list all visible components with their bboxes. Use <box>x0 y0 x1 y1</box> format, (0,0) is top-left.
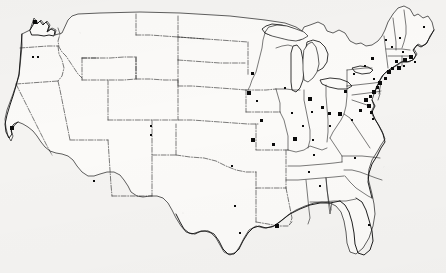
site-marker: Alabama north <box>319 185 322 188</box>
site-marker: Connecticut coast <box>403 65 406 68</box>
site-marker: Missouri <box>251 138 254 141</box>
site-marker: Kansas <box>231 165 234 168</box>
site-marker: Baltimore <box>369 95 372 98</box>
site-marker: Ohio <box>328 112 331 115</box>
site-marker: Pennsylvania northeast <box>364 65 367 68</box>
site-marker: New Hampshire north <box>399 37 402 40</box>
site-marker: Long Island <box>397 66 400 69</box>
site-marker: Wisconsin <box>284 87 287 90</box>
site-marker: North Carolina <box>354 157 357 160</box>
site-marker: Iowa north <box>247 91 250 94</box>
site-marker: Arizona <box>93 180 96 183</box>
site-marker: Indiana north <box>311 111 314 114</box>
site-marker: Puget Sound <box>33 20 37 24</box>
site-marker: Maine <box>423 26 426 29</box>
site-marker: New York east <box>371 57 374 60</box>
site-marker: Missouri east <box>272 143 275 146</box>
us-map-svg: Puget SoundOregon westOregon eastSan Fra… <box>0 0 446 273</box>
site-marker: Ohio south <box>329 125 332 128</box>
site-marker: New Orleans <box>275 224 279 228</box>
site-marker: Oregon east <box>37 56 40 59</box>
site-marker: Illinois south <box>293 137 296 140</box>
site-marker: Virginia east <box>370 111 373 114</box>
site-marker: Indiana <box>312 139 315 142</box>
site-marker: Texas north <box>234 205 237 208</box>
site-marker: Long Island west <box>391 67 394 70</box>
site-marker: Tennessee <box>308 171 311 174</box>
site-marker: Illinois central <box>302 125 305 128</box>
site-marker: Florida central <box>368 224 371 227</box>
site-marker: Oregon west <box>32 56 35 59</box>
site-marker: New Hampshire <box>391 46 394 49</box>
site-marker: Virginia west <box>351 119 354 122</box>
site-marker: Vermont <box>385 39 388 42</box>
site-marker: San Francisco Bay <box>10 126 14 130</box>
site-marker: Pennsylvania west <box>344 90 347 93</box>
site-marker: New York City <box>387 70 391 74</box>
site-marker: Connecticut <box>395 60 398 63</box>
site-marker: Washington DC <box>364 98 367 101</box>
site-marker: Massachusetts north <box>402 51 405 54</box>
site-marker: Cape Cod <box>414 61 417 64</box>
site-marker: Delaware <box>376 86 379 89</box>
site-marker: Michigan south <box>308 97 311 100</box>
site-marker: Hampton Roads <box>372 118 375 121</box>
site-marker: Ohio northeast <box>338 112 342 116</box>
site-marker: Colorado north <box>150 125 153 128</box>
site-marker: Ohio northwest <box>321 106 324 109</box>
site-marker: Texas gulf <box>239 232 242 235</box>
site-marker: Missouri west <box>260 119 263 122</box>
site-marker: Pennsylvania southeast <box>373 78 376 81</box>
site-marker: Boston <box>409 55 412 58</box>
site-marker: Maryland north <box>372 90 375 93</box>
site-marker: Pennsylvania central <box>353 73 356 76</box>
site-marker: Colorado south <box>150 134 153 137</box>
continental-landmass <box>5 6 434 255</box>
site-marker: Virginia <box>359 109 362 112</box>
site-marker: Kentucky <box>313 154 316 157</box>
us-map-figure: Puget SoundOregon westOregon eastSan Fra… <box>0 0 446 273</box>
site-marker: Chesapeake <box>367 104 370 107</box>
site-marker: Illinois north <box>291 112 294 115</box>
site-marker: Philadelphia <box>378 81 381 84</box>
site-marker: New Jersey <box>384 77 387 80</box>
site-marker: Iowa <box>256 100 259 103</box>
site-marker: Rhode Island <box>403 58 406 61</box>
site-marker: Minnesota <box>251 72 254 75</box>
